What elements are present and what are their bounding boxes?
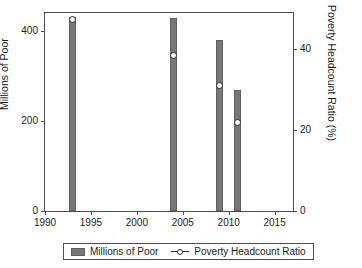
y-axis-right-title: Poverty Headcount Ratio (%) xyxy=(326,5,338,141)
bar-swatch-icon xyxy=(71,248,85,256)
y-axis-left-tick-label: 200 xyxy=(21,116,38,126)
x-axis-tick-label: 2005 xyxy=(172,218,194,228)
chart-legend: Millions of Poor Poverty Headcount Ratio xyxy=(63,243,314,260)
x-axis-tick xyxy=(45,211,46,215)
bar-2009 xyxy=(216,40,223,211)
y-axis-left-tick-label: 0 xyxy=(32,206,38,216)
x-axis-tick-label: 2015 xyxy=(264,218,286,228)
x-axis-tick-label: 1990 xyxy=(34,218,56,228)
y-axis-right-tick xyxy=(293,49,297,50)
x-axis-tick xyxy=(229,211,230,215)
x-axis-tick-label: 2000 xyxy=(126,218,148,228)
legend-item-millions-of-poor: Millions of Poor xyxy=(71,246,158,257)
bar-2011 xyxy=(234,90,241,212)
x-axis-tick-label: 1995 xyxy=(80,218,102,228)
legend-label-poverty-headcount-ratio: Poverty Headcount Ratio xyxy=(194,246,305,257)
chart-figure: Millions of Poor Poverty Headcount Ratio… xyxy=(0,0,362,268)
plot-area: 020040002040199019952000200520102015 xyxy=(44,12,294,212)
y-axis-left-tick-label: 400 xyxy=(21,26,38,36)
y-axis-right-tick xyxy=(293,211,297,212)
line-marker-swatch-icon xyxy=(171,248,189,256)
y-axis-left-title: Millions of Poor xyxy=(0,38,10,110)
x-axis-tick xyxy=(183,211,184,215)
y-axis-left-tick xyxy=(41,121,45,122)
legend-label-millions-of-poor: Millions of Poor xyxy=(90,246,158,257)
y-axis-left-tick xyxy=(41,31,45,32)
x-axis-tick xyxy=(275,211,276,215)
marker-1993 xyxy=(69,16,76,23)
y-axis-right-tick xyxy=(293,130,297,131)
x-axis-tick xyxy=(137,211,138,215)
x-axis-tick xyxy=(91,211,92,215)
bar-2004 xyxy=(170,18,177,212)
y-axis-right-tick-label: 40 xyxy=(300,44,311,54)
y-axis-right-tick-label: 20 xyxy=(300,125,311,135)
y-axis-right-tick-label: 0 xyxy=(300,206,306,216)
plot-inner: 020040002040199019952000200520102015 xyxy=(45,13,293,211)
x-axis-tick-label: 2010 xyxy=(218,218,240,228)
legend-item-poverty-headcount-ratio: Poverty Headcount Ratio xyxy=(171,246,305,257)
bar-1993 xyxy=(69,17,76,211)
